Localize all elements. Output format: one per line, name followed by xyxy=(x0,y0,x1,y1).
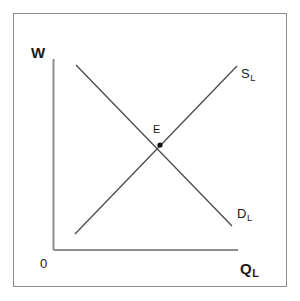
equilibrium-point-marker xyxy=(157,142,162,147)
x-axis-label-main: Q xyxy=(240,260,252,277)
supply-curve-label: SL xyxy=(241,67,255,80)
demand-curve-label-subscript: L xyxy=(246,213,252,223)
supply-curve-label-main: S xyxy=(241,66,250,81)
x-axis-label: QL xyxy=(240,261,259,276)
demand-curve-label: DL xyxy=(237,207,252,220)
figure-root: W 0 QL SL DL E xyxy=(0,0,300,301)
equilibrium-label: E xyxy=(153,124,160,135)
supply-curve-line xyxy=(75,66,237,234)
supply-curve-label-subscript: L xyxy=(250,73,256,83)
demand-curve-label-main: D xyxy=(237,206,246,221)
origin-label: 0 xyxy=(40,257,47,270)
demand-curve-line xyxy=(76,65,232,226)
x-axis-label-subscript: L xyxy=(252,267,259,279)
y-axis-label: W xyxy=(31,45,45,60)
